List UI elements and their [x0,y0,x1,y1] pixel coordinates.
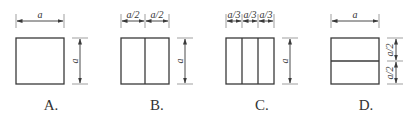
dim-label: a [69,59,80,64]
option-label: B. [150,97,164,113]
right-dimension-d: a/2 a/2 [384,38,403,84]
top-dimension-c: a/3 a/3 a/3 [226,9,274,28]
dim-label: a [353,9,358,20]
top-dimension-d: a [331,9,379,28]
dim-label: a [279,59,290,64]
option-c: a/3 a/3 a/3 a C. [226,9,298,113]
right-dimension-a: a [69,38,88,84]
option-d: a a/2 a/2 D. [331,9,403,113]
dim-label: a/2 [127,9,140,20]
option-b: a/2 a/2 a B. [121,9,193,113]
diagram-canvas: a a A. a/2 a/2 a B. [0,0,406,118]
option-label: C. [255,97,269,113]
dim-label: a [174,59,185,64]
dim-label: a/2 [151,9,164,20]
dim-label: a/3 [228,9,241,20]
right-dimension-b: a [174,38,193,84]
top-dimension-b: a/2 a/2 [121,9,169,28]
dim-label: a/3 [260,9,273,20]
square-c [226,38,274,84]
dim-label: a/2 [384,44,395,57]
square-a [16,38,64,84]
dim-label: a/3 [244,9,257,20]
right-dimension-c: a [279,38,298,84]
top-dimension-a: a [16,9,64,28]
option-a: a a A. [16,9,88,113]
option-label: A. [44,97,59,113]
dim-label: a/2 [384,67,395,80]
option-label: D. [359,97,374,113]
dim-label: a [38,9,43,20]
